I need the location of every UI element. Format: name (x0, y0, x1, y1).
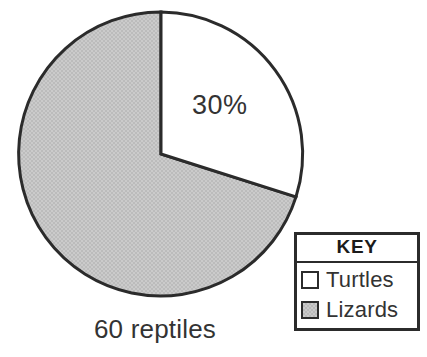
legend-item-lizards: Lizards (301, 295, 417, 325)
legend-swatch-turtles-icon (301, 271, 319, 289)
legend-title-row: KEY (297, 235, 417, 263)
legend-label-lizards: Lizards (326, 297, 398, 323)
legend-key-box: KEY Turtles Lizards (294, 232, 420, 331)
chart-caption: 60 reptiles (0, 314, 310, 345)
pie-chart-figure: 30% 60 reptiles KEY Turtles Lizards (0, 0, 427, 357)
legend-title: KEY (337, 236, 378, 257)
slice-label-turtles: 30% (192, 90, 248, 121)
legend-label-turtles: Turtles (326, 267, 394, 293)
legend-item-turtles: Turtles (301, 265, 417, 295)
legend-item-list: Turtles Lizards (297, 263, 417, 328)
legend-swatch-lizards-icon (301, 301, 319, 319)
pie-chart-graphic (19, 12, 303, 296)
